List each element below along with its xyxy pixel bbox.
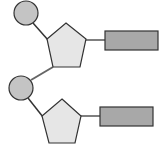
nucleotide-2: [9, 76, 153, 143]
base-rectangle-1: [105, 31, 158, 50]
nucleotide-1: [14, 1, 158, 67]
backbone-link: [31, 67, 53, 80]
phosphate-circle-2: [9, 76, 33, 100]
nucleotide-diagram: [0, 0, 167, 149]
sugar-pentagon-1: [47, 23, 86, 67]
phosphate-sugar-bond-2: [28, 98, 43, 117]
sugar-pentagon-2: [42, 99, 81, 143]
phosphate-sugar-bond-1: [33, 23, 48, 40]
base-rectangle-2: [100, 107, 153, 126]
phosphate-circle-1: [14, 1, 38, 25]
